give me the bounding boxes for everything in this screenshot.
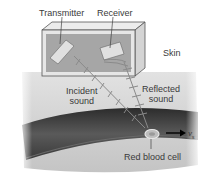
skin-label: Skin — [163, 48, 181, 58]
transmitter-label: Transmitter — [39, 8, 84, 18]
velocity-label: vs — [188, 128, 194, 142]
reflected-sound-label: Reflected sound — [142, 84, 180, 104]
incident-sound-label: Incident sound — [66, 86, 98, 106]
red-blood-cell-label: Red blood cell — [124, 152, 181, 162]
receiver-label: Receiver — [97, 8, 133, 18]
transducer-box — [42, 22, 145, 76]
